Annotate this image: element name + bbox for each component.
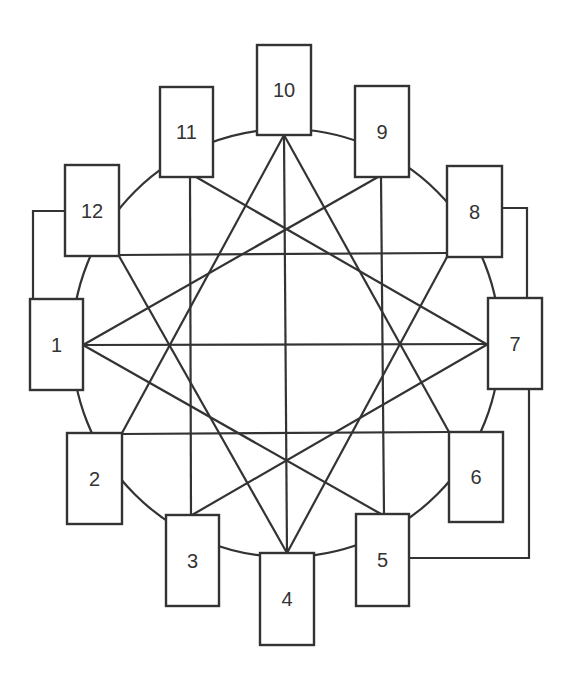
node-7: 7 xyxy=(488,298,542,389)
node-label: 11 xyxy=(176,121,197,143)
node-3: 3 xyxy=(166,515,219,606)
node-2: 2 xyxy=(67,433,122,524)
node-label: 2 xyxy=(89,468,100,490)
edge-1-7 xyxy=(83,344,488,345)
edge-11-3 xyxy=(190,177,191,515)
node-label: 8 xyxy=(469,201,480,223)
node-8: 8 xyxy=(447,166,502,257)
node-10: 10 xyxy=(257,45,311,135)
edge-1-5 xyxy=(83,345,381,514)
node-11: 11 xyxy=(160,87,213,177)
node-label: 6 xyxy=(470,466,481,488)
network-diagram: 123456789101112 xyxy=(0,0,572,683)
node-label: 10 xyxy=(273,79,295,101)
node-4: 4 xyxy=(260,553,314,645)
node-label: 12 xyxy=(81,200,103,222)
node-1: 1 xyxy=(30,299,83,390)
node-label: 3 xyxy=(187,550,198,572)
node-9: 9 xyxy=(355,86,409,177)
node-6: 6 xyxy=(449,432,503,522)
node-label: 7 xyxy=(509,333,520,355)
edge-12-8 xyxy=(119,253,447,255)
node-label: 4 xyxy=(281,588,292,610)
edge-2-6 xyxy=(122,432,449,434)
node-5: 5 xyxy=(356,514,409,606)
connector-12-1 xyxy=(33,211,65,299)
edge-9-5 xyxy=(381,177,384,514)
node-12: 12 xyxy=(65,165,119,256)
node-label: 1 xyxy=(51,334,62,356)
node-label: 5 xyxy=(377,549,388,571)
node-label: 9 xyxy=(376,121,387,143)
connector-8-7 xyxy=(502,208,527,298)
edge-lines xyxy=(83,135,488,553)
edge-9-1 xyxy=(83,177,378,345)
